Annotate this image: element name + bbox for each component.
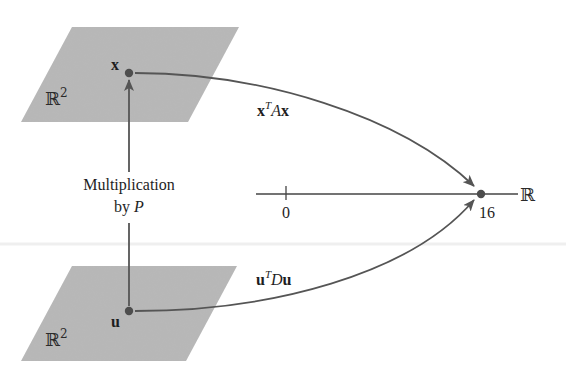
vertical-arrow-label-line1: Multiplication xyxy=(83,176,175,194)
lower-map-vec1: u xyxy=(256,271,265,288)
upper-map-label: xTAx xyxy=(257,99,289,119)
point-u-label: u xyxy=(111,313,120,330)
top-plane-exponent: 2 xyxy=(60,86,68,100)
vertical-arrow-label-line2: by P xyxy=(114,198,144,216)
point-x-label: x xyxy=(111,56,119,73)
lower-map-label: uTDu xyxy=(256,268,292,288)
value-16-label: 16 xyxy=(479,204,495,221)
matrix-p-symbol: P xyxy=(133,198,144,215)
quadratic-form-change-of-variable-diagram: ℝ2 x ℝ2 u Multiplication by P xTAx uTDu xyxy=(0,0,566,374)
value-16-dot xyxy=(477,190,485,198)
zero-tick-label: 0 xyxy=(282,204,290,221)
vertical-arrow-label-prefix: by xyxy=(114,198,134,216)
lower-map-vec2: u xyxy=(283,271,292,288)
upper-map-vec2: x xyxy=(281,102,289,119)
upper-map-matrix: A xyxy=(270,102,281,119)
upper-map-vec1: x xyxy=(257,102,265,119)
bottom-plane-exponent: 2 xyxy=(60,327,68,341)
top-plane-space-symbol: ℝ xyxy=(45,88,61,109)
real-number-line: 0 16 ℝ xyxy=(256,184,536,221)
bottom-plane-space-symbol: ℝ xyxy=(45,329,61,350)
point-x-dot xyxy=(125,69,133,77)
point-u-dot xyxy=(125,307,133,315)
lower-map-matrix: D xyxy=(270,271,283,288)
number-line-space-label: ℝ xyxy=(520,184,536,205)
